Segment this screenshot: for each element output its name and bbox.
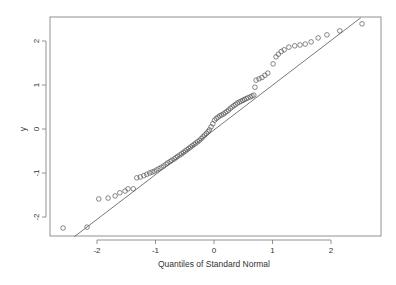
y-tick-label: -2 — [32, 213, 41, 221]
y-tick-label: -1 — [32, 169, 41, 177]
x-axis-title: Quantiles of Standard Normal — [158, 259, 270, 269]
x-tick-label: -2 — [93, 246, 101, 255]
x-tick-label: -1 — [152, 246, 160, 255]
qq-plot: -2-1012 -2-1012 Quantiles of Standard No… — [0, 0, 396, 285]
y-tick-label: 2 — [32, 38, 41, 43]
y-tick-label: 1 — [32, 82, 41, 87]
x-tick-label: 2 — [329, 246, 334, 255]
y-tick-label: 0 — [32, 126, 41, 131]
x-tick-label: 0 — [212, 246, 217, 255]
x-tick-label: 1 — [270, 246, 275, 255]
